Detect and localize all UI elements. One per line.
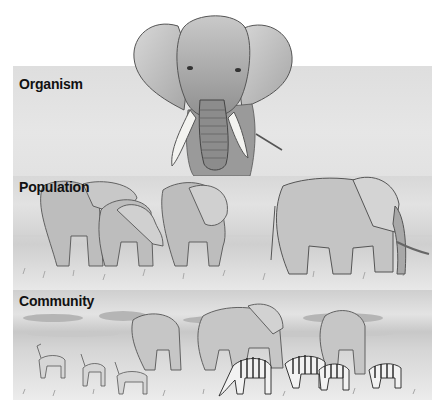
- population-label: Population: [19, 179, 89, 195]
- population-panel: Population: [13, 176, 432, 290]
- organism-label: Organism: [19, 76, 83, 92]
- community-panel: Community: [13, 290, 432, 400]
- community-label: Community: [19, 293, 94, 309]
- organism-elephant-illustration: [130, 0, 310, 176]
